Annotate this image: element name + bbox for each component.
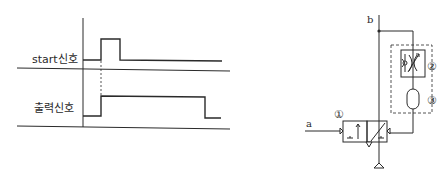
reservoir-icon [407, 89, 419, 109]
timer-group-box [391, 45, 432, 113]
component-number-2: ② [427, 60, 437, 73]
start-signal-waveform [83, 39, 222, 61]
diagram-canvas: b a ① ② ③ [0, 0, 447, 181]
port-label-b: b [367, 14, 373, 25]
port-label-a: a [306, 118, 312, 129]
output-signal-waveform [83, 96, 221, 118]
exhaust-triangle-icon [374, 163, 384, 168]
junction-dot [377, 29, 380, 32]
start-signal-label: start신호 [32, 50, 78, 66]
divider-line-2 [17, 126, 230, 129]
throttle-check-valve-icon [401, 50, 425, 77]
output-signal-label: 출력신호 [34, 99, 74, 115]
divider-line-1 [17, 68, 230, 71]
component-number-1: ① [334, 108, 344, 121]
branch-to-throttle [379, 31, 413, 50]
component-number-3: ③ [427, 94, 437, 107]
three-two-valve-icon [340, 121, 390, 147]
